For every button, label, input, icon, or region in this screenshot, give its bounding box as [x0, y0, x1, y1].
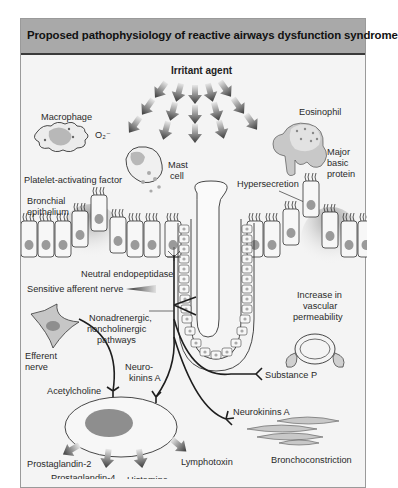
- label-major-basic-protein-1: Major: [327, 147, 350, 157]
- inflammatory-cell: [65, 397, 177, 457]
- label-nanc-3: pathways: [97, 335, 136, 345]
- label-hypersecretion: Hypersecretion: [237, 179, 299, 189]
- label-vascular-permeability-3: permeability: [293, 312, 343, 322]
- label-efferent-nerve-1: Efferent: [25, 351, 57, 361]
- label-neurokinins-a-upper-1: Neuro-: [125, 362, 153, 372]
- label-vascular-permeability-1: Increase in: [297, 290, 342, 300]
- label-bronchoconstriction: Bronchoconstriction: [271, 455, 352, 465]
- label-prostaglandin-2: Prostaglandin-2: [27, 459, 91, 469]
- pathophysiology-diagram: Irritant agent Macrophage O₂⁻ Eosinophil…: [21, 19, 367, 479]
- mast-cell: [126, 147, 162, 193]
- efferent-nerve-cell: [31, 304, 79, 348]
- label-sensitive-afferent-nerve: Sensitive afferent nerve: [27, 284, 123, 294]
- label-histamine: Histamine: [127, 475, 168, 479]
- label-major-basic-protein-3: protein: [327, 169, 355, 179]
- label-efferent-nerve-2: nerve: [25, 362, 48, 372]
- label-bronchial-epithelium-1: Bronchial: [27, 196, 65, 206]
- label-neutral-endopeptidase: Neutral endopeptidase: [81, 269, 173, 279]
- label-mast-cell-1: Mast: [168, 160, 188, 170]
- label-bronchial-epithelium-2: epithelium: [27, 207, 69, 217]
- label-neurokinins-a-lower: Neurokinins A: [233, 407, 291, 417]
- label-major-basic-protein-2: basic: [327, 158, 349, 168]
- eosinophil-cell: [273, 123, 327, 175]
- label-macrophage: Macrophage: [41, 112, 92, 122]
- capillary-vessel: [286, 334, 344, 367]
- macrophage-cell: [34, 122, 88, 151]
- label-nanc-2: noncholinergic: [87, 324, 147, 334]
- label-acetylcholine: Acetylcholine: [47, 386, 101, 396]
- irritant-arrows: [123, 77, 262, 143]
- submucosal-gland: [178, 181, 254, 371]
- label-substance-p: Substance P: [265, 370, 317, 380]
- label-nanc-1: Nonadrenergic,: [89, 313, 152, 323]
- label-eosinophil: Eosinophil: [299, 107, 341, 117]
- label-irritant-agent: Irritant agent: [171, 65, 233, 76]
- label-mast-cell-2: cell: [170, 171, 184, 181]
- label-vascular-permeability-2: vascular: [303, 301, 337, 311]
- label-neurokinins-a-upper-2: kinins A: [129, 373, 162, 383]
- figure-frame: Proposed pathophysiology of reactive air…: [20, 18, 366, 488]
- label-platelet-activating-factor: Platelet-activating factor: [24, 175, 122, 185]
- afferent-arrow-icon: [126, 285, 156, 293]
- label-lymphotoxin: Lymphotoxin: [181, 457, 233, 467]
- smooth-muscle-cells: [247, 417, 339, 445]
- label-o2-superoxide: O₂⁻: [95, 130, 111, 140]
- label-prostaglandin-4: Prostaglandin-4: [51, 473, 115, 479]
